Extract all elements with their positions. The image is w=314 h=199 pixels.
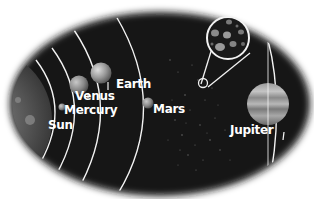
label-sun: Sun (48, 119, 73, 132)
planet-earth (91, 63, 112, 84)
label-mars: Mars (153, 103, 185, 116)
label-earth: Earth (116, 78, 151, 91)
label-mercury: Mercury (64, 104, 117, 117)
solar-system-diagram: Earth Venus Mercury Sun Mars Jupiter (0, 0, 314, 199)
planet-mars (143, 98, 154, 109)
label-jupiter: Jupiter (230, 124, 273, 137)
diagram-canvas (0, 0, 314, 199)
label-venus: Venus (75, 90, 115, 103)
